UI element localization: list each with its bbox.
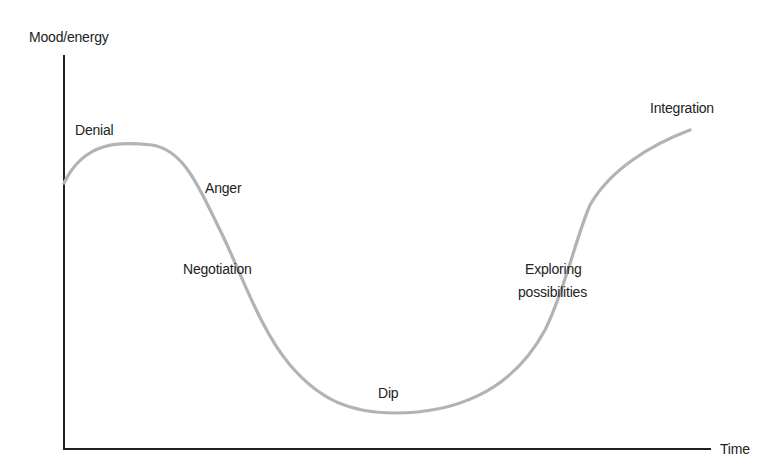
label-possibilities: possibilities	[518, 284, 587, 300]
label-anger: Anger	[205, 180, 242, 196]
label-denial: Denial	[75, 122, 114, 138]
change-curve	[64, 130, 690, 413]
label-negotiation: Negotiation	[183, 261, 252, 277]
x-axis-label: Time	[720, 441, 750, 457]
y-axis-label: Mood/energy	[29, 29, 109, 45]
label-exploring: Exploring	[525, 261, 582, 277]
label-integration: Integration	[650, 100, 714, 116]
change-curve-diagram: Mood/energy Time Denial Anger Negotiatio…	[0, 0, 783, 474]
label-dip: Dip	[378, 385, 399, 401]
